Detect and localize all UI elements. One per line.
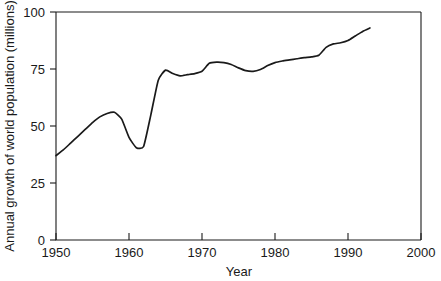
axes-frame <box>56 12 421 240</box>
y-tick-label-75: 75 <box>31 62 45 77</box>
y-tick-label-100: 100 <box>23 5 45 20</box>
y-axis-title: Annual growth of world population (milli… <box>2 0 17 251</box>
x-tick-label-1980: 1980 <box>261 245 290 260</box>
x-axis-title: Year <box>226 264 253 279</box>
chart-figure: 100 75 50 25 0 1950 1960 1970 1980 1990 … <box>0 0 441 281</box>
x-tick-label-2000: 2000 <box>407 245 436 260</box>
y-tick-label-25: 25 <box>31 176 45 191</box>
y-tick-label-50: 50 <box>31 119 45 134</box>
axis-spines <box>56 12 421 240</box>
x-tick-labels: 1950 1960 1970 1980 1990 2000 <box>42 245 436 260</box>
data-series-line <box>56 28 370 156</box>
population-growth-line-chart: 100 75 50 25 0 1950 1960 1970 1980 1990 … <box>0 0 441 281</box>
x-tick-label-1950: 1950 <box>42 245 71 260</box>
x-tick-label-1970: 1970 <box>188 245 217 260</box>
x-tick-marks <box>56 233 421 240</box>
x-tick-label-1990: 1990 <box>334 245 363 260</box>
x-tick-label-1960: 1960 <box>115 245 144 260</box>
y-tick-labels: 100 75 50 25 0 <box>23 5 45 248</box>
y-tick-marks <box>50 12 56 240</box>
